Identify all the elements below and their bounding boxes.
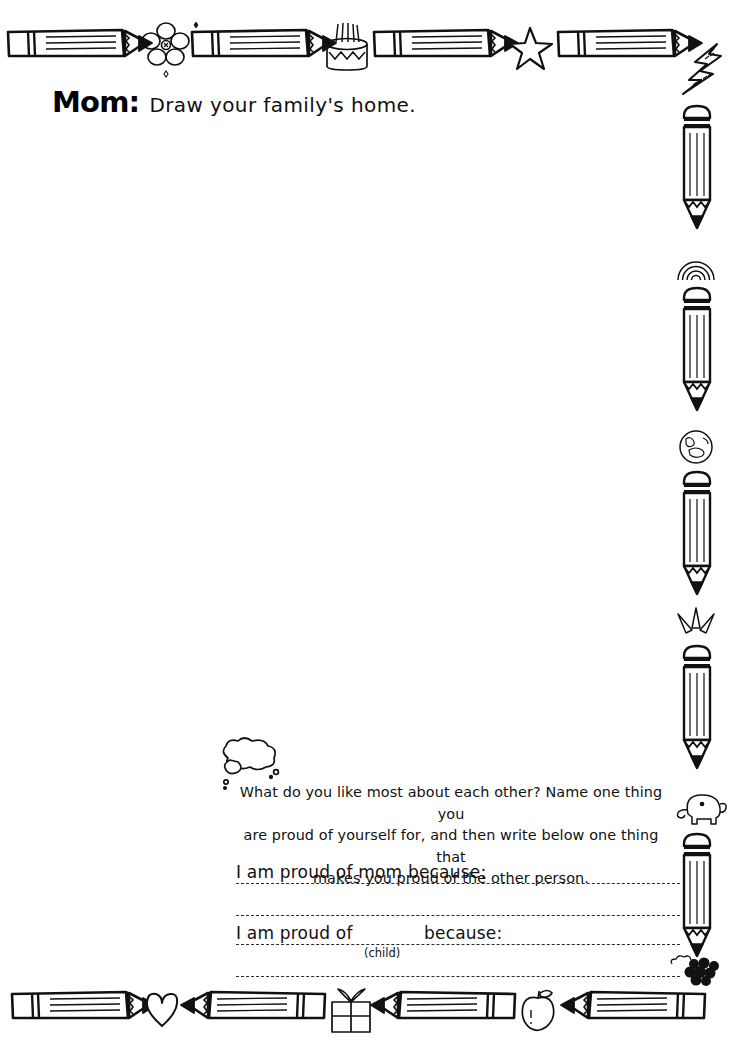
pencil-icon xyxy=(684,472,710,594)
field-label-proud-of-b: because: xyxy=(424,923,502,943)
prompt-line-1: What do you like most about each other? … xyxy=(236,782,666,825)
pencil-icon xyxy=(374,30,518,56)
title-prompt: Draw your family's home. xyxy=(149,95,416,115)
top-border-decoration xyxy=(0,14,750,76)
drawing-area[interactable] xyxy=(40,135,650,725)
gift-icon xyxy=(332,989,370,1032)
pencil-icon xyxy=(558,30,702,56)
right-border-decoration xyxy=(662,96,750,976)
pencil-icon xyxy=(8,30,152,56)
field-label-proud-of-mom: I am proud of mom because: xyxy=(236,862,486,882)
pencil-icon xyxy=(181,992,325,1018)
pencil-icon xyxy=(684,646,710,768)
field-hint-child: (child) xyxy=(364,946,400,960)
elephant-icon xyxy=(677,795,726,824)
title-row: Mom: Draw your family's home. xyxy=(52,88,416,117)
pencil-icon xyxy=(684,834,710,956)
field-label-proud-of-a: I am proud of xyxy=(236,923,353,943)
globe-icon xyxy=(680,431,712,463)
pencil-icon xyxy=(192,30,336,56)
worksheet-page: Mom: Draw your family's home. xyxy=(0,0,750,1056)
sparkle-icon xyxy=(678,608,714,633)
rainbow-icon xyxy=(678,262,714,280)
cake-icon xyxy=(327,23,367,70)
pencil-icon xyxy=(12,992,156,1018)
bottom-border-decoration xyxy=(0,974,750,1036)
write-line-1[interactable] xyxy=(236,883,680,884)
star-icon xyxy=(510,28,552,69)
write-line-2[interactable] xyxy=(236,915,680,916)
pencil-icon xyxy=(561,992,705,1018)
flower-icon xyxy=(142,22,199,77)
heart-icon xyxy=(147,994,177,1026)
page-title: Mom: xyxy=(52,88,139,117)
pencil-icon xyxy=(684,106,710,228)
pencil-icon xyxy=(684,288,710,410)
pencil-icon xyxy=(371,992,515,1018)
apple-icon xyxy=(522,991,553,1031)
write-line-3[interactable] xyxy=(236,944,680,945)
